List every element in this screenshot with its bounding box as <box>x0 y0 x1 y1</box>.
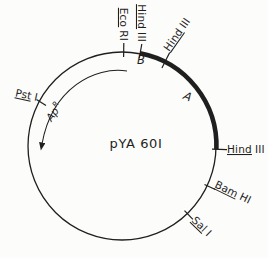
amp-resistance-label: ApR <box>41 99 64 124</box>
pst-i-label: PstI <box>14 87 39 103</box>
region-a-label: A <box>180 88 194 104</box>
plasmid-map: EcoRI HindIII HindIII HindIII BamHI SalI… <box>0 0 268 258</box>
hind3-top-label: HindIII <box>136 4 148 42</box>
sal-i-label: SalI <box>190 214 215 239</box>
figure-canvas: EcoRI HindIII HindIII HindIII BamHI SalI… <box>0 0 268 258</box>
hind3-upper-right-label: HindIII <box>161 15 193 53</box>
plasmid-name: pYA 60I <box>110 136 163 151</box>
hind3-right-label: HindIII <box>227 143 265 155</box>
region-b-label: B <box>137 53 145 67</box>
eco-ri-label: EcoRI <box>118 8 130 41</box>
bam-hi-label: BamHI <box>213 178 253 206</box>
insert-fragment-arc <box>140 53 216 149</box>
hind3-right-tick <box>212 149 227 150</box>
